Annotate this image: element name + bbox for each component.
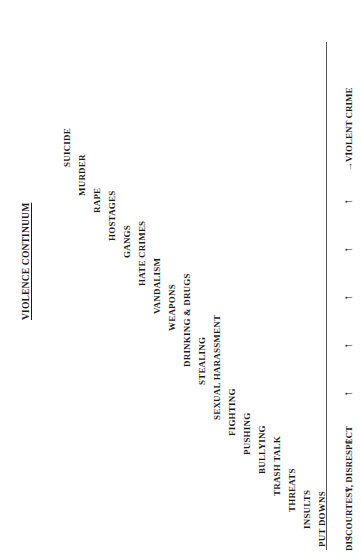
- escalation-step: VANDALISM: [153, 258, 162, 314]
- escalation-step: HOSTAGES: [108, 191, 117, 241]
- escalation-step: DRINKING & DRUGS: [183, 273, 192, 367]
- escalation-step: INSULTS: [303, 490, 312, 529]
- arrow-up-icon: ↑: [342, 295, 354, 301]
- arrow-up-icon: ↑: [342, 247, 354, 253]
- arrow-up-icon: ↑: [342, 343, 354, 349]
- escalation-step: BULLYING: [258, 425, 267, 474]
- escalation-step: TRASH TALK: [273, 436, 282, 496]
- escalation-step: MURDER: [78, 154, 87, 196]
- escalation-step: SEXUAL HARASSMENT: [213, 315, 222, 420]
- continuum-axis-line: [326, 42, 327, 550]
- axis-end-caption-label: VIOLENT CRIME: [344, 87, 354, 162]
- arrow-up-icon: ↑: [342, 199, 354, 205]
- axis-end-caption: →VIOLENT CRIME: [345, 87, 354, 171]
- escalation-step: STEALING: [198, 337, 207, 385]
- escalation-step: SUICIDE: [63, 128, 72, 167]
- escalation-step: HATE CRIMES: [138, 221, 147, 286]
- escalation-step: RAPE: [93, 188, 102, 213]
- arrow-right-icon: →: [344, 162, 354, 171]
- escalation-step: GANGS: [123, 225, 132, 258]
- escalation-step: PUSHING: [243, 413, 252, 455]
- page-title: VIOLENCE CONTINUUM: [22, 203, 32, 320]
- escalation-step: WEAPONS: [168, 284, 177, 331]
- axis-start-caption: DISCOURTESY, DISRESPECT: [345, 426, 354, 551]
- figure-canvas: VIOLENCE CONTINUUM PUT DOWNSINSULTSTHREA…: [0, 0, 361, 559]
- escalation-step: FIGHTING: [228, 388, 237, 436]
- escalation-step: THREATS: [288, 468, 297, 512]
- arrow-up-icon: ↑: [342, 391, 354, 397]
